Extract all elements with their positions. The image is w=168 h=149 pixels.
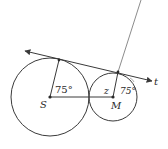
- tangent-point-m: [117, 71, 120, 74]
- tangent-line-t: [25, 51, 152, 81]
- label-s: S: [40, 99, 47, 110]
- point-m: [111, 95, 114, 98]
- label-m: M: [110, 100, 122, 111]
- radius-m: [113, 72, 118, 97]
- tangent-point-s: [58, 59, 61, 62]
- label-t: t: [154, 76, 159, 87]
- geometry-diagram: 75° z 75° S M t: [0, 0, 168, 149]
- gray-line: [118, 0, 141, 72]
- angle-label-s: 75°: [55, 84, 73, 95]
- angle-label-z: z: [103, 86, 109, 96]
- angle-label-m: 75°: [120, 86, 136, 96]
- point-s: [48, 95, 51, 98]
